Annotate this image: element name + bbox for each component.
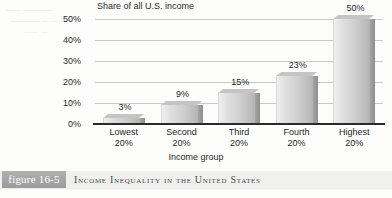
bar-top-face: [161, 101, 202, 105]
bar-group: 9%: [153, 19, 211, 124]
bar: [333, 19, 369, 124]
x-axis-tick-label: Third20%: [207, 127, 271, 149]
x-axis-tick-label-line: 20%: [265, 138, 329, 149]
bar-front-face: [218, 93, 255, 125]
bar-value-label: 3%: [100, 102, 150, 112]
x-axis-line: [93, 123, 385, 125]
bar-front-face: [276, 76, 313, 124]
bar-chart: Share of all U.S. income 50%40%30%20%10%…: [0, 0, 392, 166]
bar-value-label: 50%: [330, 3, 380, 13]
bar-value-label: 23%: [273, 60, 323, 70]
x-axis-tick-label: Second20%: [149, 127, 213, 149]
bar-top-face: [103, 114, 144, 118]
caption-strip-shadow: [0, 188, 392, 190]
x-axis-tick-label: Lowest20%: [92, 127, 156, 149]
bar-top-face: [333, 15, 374, 19]
x-axis-tick-label-line: Second: [149, 127, 213, 138]
bar-group: 15%: [210, 19, 268, 124]
y-axis-tick-label: 10%: [41, 98, 81, 108]
y-axis-tick-label: 30%: [41, 56, 81, 66]
figure-number-badge: figure 16-5: [2, 171, 66, 188]
y-axis-tick-label: 0%: [41, 119, 81, 129]
x-axis-tick-label-line: 20%: [207, 138, 271, 149]
plot-area: 50%40%30%20%10%0% 3%9%15%23%50%: [95, 19, 383, 124]
x-axis-tick-label: Highest20%: [322, 127, 386, 149]
bar-group: 3%: [95, 19, 153, 124]
x-axis-title: Income group: [0, 152, 392, 162]
x-axis-tick-label-line: Third: [207, 127, 271, 138]
figure-container: —— ———— ———— — —— —— — Share of all U.S.…: [0, 0, 392, 198]
x-axis-tick-label-line: 20%: [322, 138, 386, 149]
x-axis-tick-label-line: Lowest: [92, 127, 156, 138]
x-axis-tick-label-line: 20%: [149, 138, 213, 149]
figure-caption-text: Income Inequality in the United States: [74, 173, 261, 186]
bar-front-face: [333, 19, 370, 124]
bar-group: 50%: [325, 19, 383, 124]
bar-value-label: 9%: [158, 89, 208, 99]
bar-top-face: [276, 72, 317, 76]
x-axis-tick-label-line: Fourth: [265, 127, 329, 138]
bar: [218, 93, 254, 125]
y-axis-title: Share of all U.S. income: [97, 1, 194, 11]
bar: [276, 76, 312, 124]
bar-value-label: 15%: [215, 77, 265, 87]
y-axis-tick-label: 50%: [41, 14, 81, 24]
bar-top-face: [218, 89, 259, 93]
y-axis-tick-label: 40%: [41, 35, 81, 45]
bar-series: 3%9%15%23%50%: [95, 19, 383, 124]
x-axis-tick-label: Fourth20%: [265, 127, 329, 149]
bar-group: 23%: [268, 19, 326, 124]
x-axis-tick-label-line: 20%: [92, 138, 156, 149]
x-axis-tick-label-line: Highest: [322, 127, 386, 138]
y-axis-tick-label: 20%: [41, 77, 81, 87]
bar: [161, 105, 197, 124]
figure-caption-strip: figure 16-5 Income Inequality in the Uni…: [0, 171, 392, 188]
bar-front-face: [161, 105, 198, 124]
